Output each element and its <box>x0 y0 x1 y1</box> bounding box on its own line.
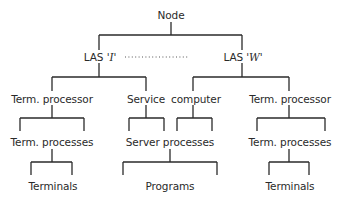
left-term-processes-label: Term. processes <box>11 136 94 148</box>
computer-label: computer <box>171 93 221 105</box>
hierarchy-diagram: Node LAS 'I' LAS 'W' Term. processor Ser… <box>0 0 341 200</box>
service-label: Service <box>127 93 165 105</box>
las-right-prefix: LAS <box>223 51 246 63</box>
las-right-label: LAS 'W' <box>223 51 262 63</box>
server-processes-label: Server processes <box>126 136 214 148</box>
las-left-name: 'I' <box>107 51 117 63</box>
left-term-processor-label: Term. processor <box>11 93 93 105</box>
left-terminals-label: Terminals <box>29 180 78 192</box>
right-term-processor-label: Term. processor <box>249 93 331 105</box>
las-right-name: 'W' <box>246 51 262 63</box>
las-left-label: LAS 'I' <box>84 51 117 63</box>
programs-label: Programs <box>146 180 195 192</box>
las-left-prefix: LAS <box>84 51 107 63</box>
node-label: Node <box>157 9 184 21</box>
right-terminals-label: Terminals <box>266 180 315 192</box>
right-term-processes-label: Term. processes <box>249 136 332 148</box>
